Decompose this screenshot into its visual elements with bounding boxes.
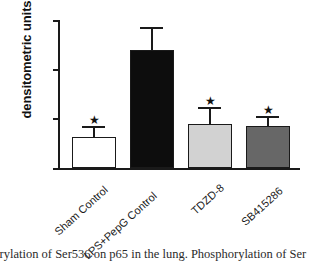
error-bar-line-sham-control [93,128,95,137]
y-tick-3000 [53,20,58,22]
y-axis-label: densitometric units [19,0,34,130]
y-tick-2000 [53,69,58,71]
significance-star-sham-control: ★ [89,114,100,126]
bar-lps-pepg-control [130,50,174,168]
bar-tdzd-8 [188,124,232,168]
plot-area: 3000 2000 1000 0 ★ ★ ★ Sham Control LPS+… [58,20,300,168]
bar-sb415286 [246,126,290,168]
bar-sham-control [72,137,116,168]
y-tick-0 [53,168,58,170]
bar-chart-figure: densitometric units 3000 2000 1000 0 ★ ★… [0,0,309,240]
error-bar-cap-lps-pepg-control [140,27,163,29]
significance-star-tdzd-8: ★ [205,95,216,107]
error-bar-line-sb415286 [267,118,269,126]
error-bar-line-tdzd-8 [209,109,211,124]
y-tick-1000 [53,118,58,120]
significance-star-sb415286: ★ [263,104,274,116]
x-axis-line [58,168,300,170]
error-bar-line-lps-pepg-control [151,29,153,50]
figure-caption: sphorylation of Ser536 on p65 in the lun… [0,248,309,262]
y-axis-line [58,20,60,169]
